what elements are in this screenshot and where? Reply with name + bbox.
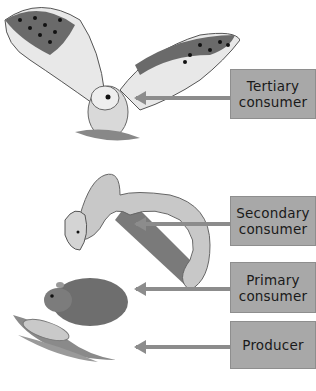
label-line-2: consumer [239,288,307,304]
label-line-2: consumer [236,221,309,237]
arrow-to-owl [136,96,230,100]
label-secondary-consumer: Secondary consumer [230,196,316,246]
label-line-1: Producer [242,337,303,353]
label-line-1: Primary [239,272,307,288]
label-line-1: Secondary [236,205,309,221]
label-producer: Producer [230,321,316,369]
label-tertiary-consumer: Tertiary consumer [230,69,316,119]
arrow-to-mouse [136,287,230,291]
label-line-2: consumer [239,94,307,110]
corn-illustration [8,310,118,365]
label-primary-consumer: Primary consumer [230,262,316,313]
arrow-to-snake [136,222,230,226]
arrow-to-corn [136,345,230,349]
label-line-1: Tertiary [239,78,307,94]
owl-illustration [0,0,240,165]
